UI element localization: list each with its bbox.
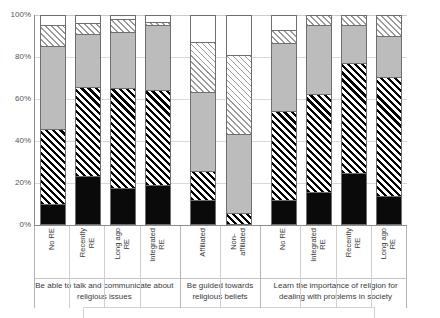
bar-segment-light-hatch [76, 24, 100, 34]
x-axis-category-cell: Recently RE [336, 226, 371, 278]
bar-segment-light-hatch [41, 26, 65, 47]
bar-segment-dark-hatch [227, 214, 251, 224]
x-axis-category-label: No RE [278, 228, 287, 250]
bar-column [376, 15, 402, 225]
bar-segment-black [76, 177, 100, 224]
bar-segment-white [76, 16, 100, 24]
bar-segment-white [191, 16, 215, 43]
bar-segment-light-hatch [111, 20, 135, 32]
bar-column [190, 15, 216, 225]
y-axis-tick-label: 0% [1, 221, 31, 229]
bar-segment-light-hatch [377, 16, 401, 37]
x-axis-category-cell: Non- affiliated [220, 226, 255, 278]
x-axis-category-label: Integrated RE [309, 228, 327, 262]
x-axis-category-cell: No RE [265, 226, 300, 278]
bar-segment-gray [76, 35, 100, 88]
x-axis-category-label: Long ago RE [113, 228, 131, 259]
bar-column [145, 15, 171, 225]
bar-segment-gray [377, 37, 401, 79]
bar-segment-light-hatch [342, 16, 366, 26]
bar-segment-light-hatch [272, 31, 296, 45]
bar-segment-black [307, 193, 331, 224]
plot-area [34, 15, 407, 226]
bar-column [40, 15, 66, 225]
bar-segment-white [41, 16, 65, 26]
x-axis-category-cell: Integrated RE [300, 226, 335, 278]
x-axis-category-label: Long ago RE [379, 228, 397, 259]
x-axis-category-label: Recently RE [78, 228, 96, 257]
bar-column [271, 15, 297, 225]
x-axis-category-label: Non- affiliated [229, 228, 247, 256]
bar-segment-light-hatch [191, 43, 215, 93]
bar-segment-white [146, 16, 170, 23]
category-separator [69, 226, 70, 308]
y-axis-tick-label: 100% [1, 11, 31, 19]
bar-column [306, 15, 332, 225]
x-axis-category-cell: Long ago RE [371, 226, 406, 278]
x-axis-category-label: Recently RE [344, 228, 362, 257]
bar-segment-dark-hatch [111, 89, 135, 189]
bar-segment-light-hatch [227, 56, 251, 135]
bar-segment-gray [146, 26, 170, 90]
bar-segment-black [191, 201, 215, 224]
category-separator [336, 226, 337, 308]
x-axis-category-label: No RE [47, 228, 56, 250]
x-axis-category-cell: Affiliated [185, 226, 220, 278]
category-separator [104, 226, 105, 308]
bar-series-container [35, 15, 407, 225]
x-axis-category-cell: No RE [34, 226, 69, 278]
bar-segment-gray [342, 26, 366, 63]
bar-segment-dark-hatch [307, 95, 331, 193]
bar-segment-gray [41, 47, 65, 130]
bar-segment-gray [272, 44, 296, 112]
bar-segment-black [146, 186, 170, 224]
bar-segment-black [377, 197, 401, 224]
bar-column [226, 15, 252, 225]
category-separator [371, 226, 372, 308]
y-axis: 0%20%40%60%80%100% [0, 15, 31, 226]
y-axis-tick-label: 40% [1, 137, 31, 145]
bar-segment-white [272, 16, 296, 31]
bar-segment-dark-hatch [342, 64, 366, 174]
bar-segment-dark-hatch [146, 91, 170, 186]
bar-column [75, 15, 101, 225]
x-axis-category-cell: Recently RE [69, 226, 104, 278]
x-axis-category-cell: Integrated RE [140, 226, 175, 278]
bar-segment-black [111, 189, 135, 224]
bar-segment-black [41, 205, 65, 224]
bar-segment-gray [307, 26, 331, 95]
x-axis-category-cell: Long ago RE [104, 226, 139, 278]
bar-segment-black [342, 174, 366, 224]
group-separator [260, 226, 261, 308]
category-separator [220, 226, 221, 308]
bar-segment-gray [227, 135, 251, 214]
bar-segment-white [227, 16, 251, 56]
bar-segment-dark-hatch [76, 88, 100, 177]
axis-frame-right [406, 226, 407, 308]
bar-segment-dark-hatch [377, 78, 401, 197]
category-separator [300, 226, 301, 308]
x-axis-category-label: Integrated RE [148, 228, 166, 262]
y-axis-tick-label: 60% [1, 95, 31, 103]
bar-segment-dark-hatch [191, 172, 215, 201]
x-axis-category-label: Affiliated [198, 228, 207, 257]
y-axis-tick-label: 20% [1, 179, 31, 187]
bar-segment-light-hatch [307, 16, 331, 26]
y-axis-tick-label: 80% [1, 53, 31, 61]
category-separator [140, 226, 141, 308]
bar-column [341, 15, 367, 225]
bar-column [110, 15, 136, 225]
bar-segment-black [272, 201, 296, 224]
bar-segment-dark-hatch [272, 112, 296, 201]
bar-segment-gray [111, 33, 135, 89]
bar-segment-gray [191, 93, 215, 172]
bar-segment-dark-hatch [41, 130, 65, 205]
legend-box-cutoff [83, 307, 375, 318]
group-separator [180, 226, 181, 308]
